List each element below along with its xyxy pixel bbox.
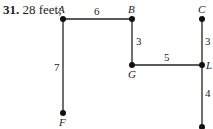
weight-a-b: 6 — [94, 5, 100, 17]
vertex-label-f: F — [58, 116, 66, 128]
vertex-b — [129, 16, 135, 22]
vertex-c — [199, 16, 205, 22]
vertex-a — [60, 16, 66, 22]
vertex-label-c: C — [198, 3, 206, 15]
vertex-e — [199, 124, 205, 129]
spanning-tree-diagram: A B C G L F 6 7 3 5 3 4 — [0, 0, 213, 129]
weight-c-l: 3 — [205, 35, 211, 47]
weight-b-g: 3 — [136, 35, 142, 47]
vertex-label-l: L — [205, 59, 212, 71]
vertex-label-a: A — [57, 3, 65, 15]
weight-a-f: 7 — [54, 61, 60, 73]
weight-g-l: 5 — [164, 51, 170, 63]
weight-l-e: 4 — [205, 87, 211, 99]
vertex-label-g: G — [128, 68, 136, 80]
vertex-label-b: B — [128, 3, 135, 15]
vertex-l — [199, 62, 205, 68]
